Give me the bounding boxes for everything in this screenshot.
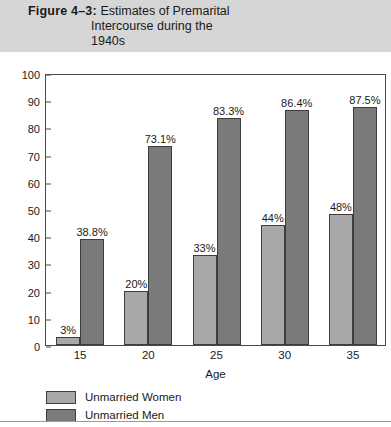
figure-title-line-3: 1940s bbox=[91, 34, 358, 49]
bar-value-label: 73.1% bbox=[145, 133, 176, 145]
bar-value-label: 44% bbox=[262, 212, 284, 224]
y-axis-tick-label: 100 bbox=[22, 69, 46, 81]
bottom-divider bbox=[0, 421, 391, 422]
y-axis-tick-label: 80 bbox=[28, 123, 46, 135]
figure-title-line-2: Intercourse during the bbox=[91, 19, 358, 34]
legend-item[interactable]: Unmarried Women bbox=[46, 389, 346, 405]
bar-value-label: 20% bbox=[125, 278, 147, 290]
bar-group: 48%87.5% bbox=[329, 75, 377, 345]
bar-group: 33%83.3% bbox=[193, 75, 241, 345]
bar-women-age-15[interactable]: 3% bbox=[56, 337, 80, 345]
y-axis-tick-label: 50 bbox=[28, 205, 46, 217]
bar-value-label: 86.4% bbox=[281, 97, 312, 109]
x-axis-tick-label: 15 bbox=[74, 349, 87, 361]
x-axis-tick-label: 25 bbox=[210, 349, 223, 361]
y-axis-tick-mark bbox=[46, 347, 51, 348]
bar-value-label: 48% bbox=[330, 201, 352, 213]
legend-swatch-men bbox=[46, 409, 76, 422]
bars-layer: 3%38.8%20%73.1%33%83.3%44%86.4%48%87.5% bbox=[46, 75, 385, 345]
bar-value-label: 33% bbox=[193, 242, 215, 254]
bar-value-label: 87.5% bbox=[349, 94, 380, 106]
y-axis-tick-label: 90 bbox=[28, 96, 46, 108]
bar-women-age-25[interactable]: 33% bbox=[193, 255, 217, 345]
figure-title: Figure 4–3: Estimates of Premarital Inte… bbox=[28, 4, 358, 49]
bar-men-age-30[interactable]: 86.4% bbox=[285, 110, 309, 345]
bar-value-label: 38.8% bbox=[76, 226, 107, 238]
bar-men-age-15[interactable]: 38.8% bbox=[80, 239, 104, 345]
bar-women-age-20[interactable]: 20% bbox=[124, 291, 148, 345]
y-axis-tick-label: 30 bbox=[28, 259, 46, 271]
bar-group: 44%86.4% bbox=[261, 75, 309, 345]
legend-swatch-women bbox=[46, 391, 76, 404]
bar-men-age-25[interactable]: 83.3% bbox=[217, 118, 241, 345]
y-axis-tick-label: 10 bbox=[28, 314, 46, 326]
y-axis-tick-label: 70 bbox=[28, 151, 46, 163]
chart-region: Percent 0102030405060708090100 3%38.8%20… bbox=[0, 52, 391, 427]
x-axis-tick-label: 35 bbox=[346, 349, 359, 361]
legend-label: Unmarried Women bbox=[85, 391, 181, 403]
bar-group: 20%73.1% bbox=[124, 75, 172, 345]
bar-value-label: 3% bbox=[60, 324, 76, 336]
bar-women-age-30[interactable]: 44% bbox=[261, 225, 285, 345]
y-axis-tick-label: 40 bbox=[28, 232, 46, 244]
chart-legend: Unmarried WomenUnmarried Men bbox=[46, 389, 346, 425]
figure-number-label: Figure 4–3: bbox=[28, 4, 97, 18]
x-axis-tick-label: 30 bbox=[278, 349, 291, 361]
bar-men-age-35[interactable]: 87.5% bbox=[353, 107, 377, 345]
figure-title-band: Figure 4–3: Estimates of Premarital Inte… bbox=[0, 0, 391, 52]
bar-men-age-20[interactable]: 73.1% bbox=[148, 146, 172, 345]
bar-women-age-35[interactable]: 48% bbox=[329, 214, 353, 345]
x-axis-tick-label: 20 bbox=[142, 349, 155, 361]
legend-label: Unmarried Men bbox=[85, 409, 164, 421]
plot-area: 0102030405060708090100 3%38.8%20%73.1%33… bbox=[45, 74, 386, 346]
bar-value-label: 83.3% bbox=[213, 105, 244, 117]
x-axis-title: Age bbox=[45, 368, 386, 380]
y-axis-tick-label: 20 bbox=[28, 287, 46, 299]
y-axis-tick-label: 60 bbox=[28, 178, 46, 190]
y-axis-tick-label: 0 bbox=[34, 341, 46, 353]
figure-title-line-1: Estimates of Premarital bbox=[100, 4, 229, 18]
bar-group: 3%38.8% bbox=[56, 75, 104, 345]
